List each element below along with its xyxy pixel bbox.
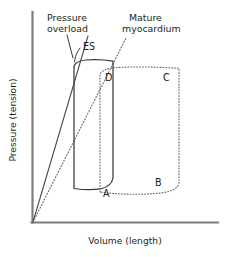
mature-myocardium-loop-path: [100, 67, 179, 194]
y-axis-label: Pressure (tension): [7, 78, 18, 161]
figure-canvas: Pressure overload Mature myocardium ES A…: [0, 0, 228, 257]
point-label-c: C: [163, 72, 170, 83]
annotation-text-group: Pressure overload Mature myocardium ES: [47, 12, 181, 52]
mature-myocardium-label-line2: myocardium: [122, 23, 181, 34]
point-label-b: B: [155, 177, 162, 188]
axes-group: [32, 12, 219, 223]
x-axis-label: Volume (length): [88, 235, 162, 246]
callout-leaders-group: [67, 35, 80, 62]
point-label-a: A: [103, 188, 110, 199]
pressure-volume-loop-figure: Pressure overload Mature myocardium ES A…: [0, 0, 228, 257]
mature-myocardium-label-line1: Mature: [129, 12, 162, 23]
pressure-overload-label-line2: overload: [47, 23, 88, 34]
pressure-overload-label-line1: Pressure: [47, 12, 87, 23]
pressure-overload-espvr-line: [33, 36, 88, 222]
point-label-d: D: [105, 72, 112, 83]
es-label: ES: [83, 41, 95, 52]
axis-labels-group: Volume (length) Pressure (tension): [7, 78, 162, 246]
espvr-lines-group: [33, 36, 126, 222]
pressure-overload-leader-line: [67, 35, 73, 58]
es-leader-line: [75, 48, 81, 62]
mature-myocardium-loop: [100, 67, 179, 194]
